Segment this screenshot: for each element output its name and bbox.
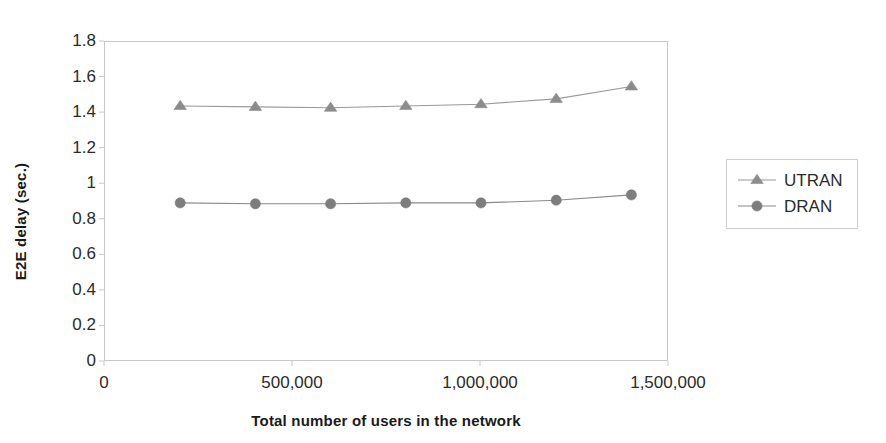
- y-axis-tick-label: 0.4: [52, 281, 96, 298]
- triangle-marker-icon: [324, 102, 336, 111]
- y-axis-tick-label: 0.8: [52, 210, 96, 227]
- y-axis-tick-label: 1.6: [52, 68, 96, 85]
- circle-marker-icon: [626, 190, 636, 200]
- triangle-marker-icon: [174, 100, 186, 109]
- triangle-marker-icon: [400, 100, 412, 109]
- chart-figure: E2E delay (sec.) 00.20.40.60.811.21.41.6…: [0, 0, 886, 443]
- legend-item-label: DRAN: [784, 198, 832, 215]
- x-axis-title: Total number of users in the network: [104, 412, 668, 429]
- y-axis-tick-label: 1.4: [52, 103, 96, 120]
- legend-item-utran[interactable]: UTRAN: [737, 167, 843, 193]
- y-axis-tick-label: 0.2: [52, 316, 96, 333]
- y-axis-tick-label: 0.6: [52, 245, 96, 262]
- circle-marker-icon: [326, 199, 336, 209]
- series-utran: [174, 81, 638, 112]
- y-axis-tick-label: 1.8: [52, 32, 96, 49]
- triangle-marker-icon: [737, 171, 777, 189]
- circle-marker-icon: [401, 198, 411, 208]
- x-axis-tick-label: 0: [99, 374, 108, 391]
- triangle-marker-icon: [625, 81, 637, 90]
- x-axis-tick-labels: 0500,0001,000,0001,500,000: [0, 374, 886, 398]
- circle-marker-icon: [476, 198, 486, 208]
- circle-marker-icon: [737, 197, 777, 215]
- circle-marker-icon: [250, 199, 260, 209]
- y-axis-tick-label: 0: [52, 352, 96, 369]
- circle-marker-icon: [551, 195, 561, 205]
- triangle-marker-icon: [249, 101, 261, 110]
- legend-item-label: UTRAN: [784, 172, 843, 189]
- circle-marker-icon: [175, 198, 185, 208]
- triangle-marker-icon: [475, 98, 487, 107]
- y-axis-tick-label: 1: [52, 174, 96, 191]
- x-axis-tick-label: 1,500,000: [630, 374, 706, 391]
- chart-legend: UTRANDRAN: [726, 159, 858, 229]
- plot-area: [104, 41, 668, 361]
- legend-item-dran[interactable]: DRAN: [737, 193, 843, 219]
- y-axis-tick-label: 1.2: [52, 139, 96, 156]
- x-axis-tick-label: 1,000,000: [442, 374, 518, 391]
- data-series-layer: [105, 42, 669, 362]
- series-dran: [175, 190, 636, 209]
- x-axis-tick-label: 500,000: [261, 374, 322, 391]
